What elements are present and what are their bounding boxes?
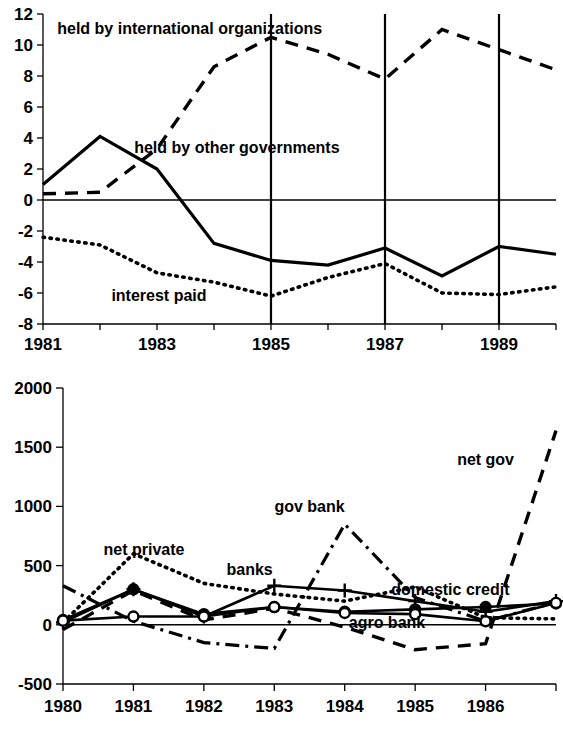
top-y-tick-label: 8 bbox=[24, 67, 33, 86]
bottom-marker-agro-bank bbox=[58, 616, 68, 626]
top-y-tick-label: 12 bbox=[14, 5, 33, 24]
bottom-series-label-net-private: net private bbox=[104, 541, 185, 558]
bottom-series-label-agro-bank: agro bank bbox=[349, 614, 426, 631]
bottom-y-tick-labels: -5000500100015002000 bbox=[14, 379, 52, 694]
bottom-x-tick-label: 1982 bbox=[185, 697, 223, 716]
top-axes bbox=[37, 14, 556, 330]
bottom-marker-agro-bank bbox=[481, 616, 491, 626]
bottom-y-tick-label: 500 bbox=[24, 557, 52, 576]
top-y-tick-labels: -8-6-4-2024681012 bbox=[14, 5, 33, 334]
bottom-marker-domestic-credit bbox=[481, 602, 491, 612]
bottom-series-label-domestic-credit: domestic credit bbox=[391, 581, 510, 598]
top-series-label-held-by-other-governments: held by other governments bbox=[134, 139, 339, 156]
top-x-tick-label: 1985 bbox=[252, 335, 290, 354]
top-series-held-by-international-organizations bbox=[43, 30, 556, 194]
top-x-tick-label: 1987 bbox=[366, 335, 404, 354]
top-y-tick-label: -8 bbox=[18, 315, 33, 334]
top-x-tick-label: 1981 bbox=[24, 335, 62, 354]
bottom-x-tick-label: 1983 bbox=[255, 697, 293, 716]
bottom-marker-banks bbox=[338, 583, 352, 597]
top-y-tick-label: -4 bbox=[18, 253, 34, 272]
bottom-y-tick-label: -500 bbox=[18, 675, 52, 694]
top-series-group bbox=[43, 30, 556, 297]
top-y-tick-label: 4 bbox=[24, 129, 34, 148]
bottom-x-tick-label: 1981 bbox=[115, 697, 153, 716]
top-x-tick-label: 1983 bbox=[138, 335, 176, 354]
bottom-y-tick-label: 1500 bbox=[14, 438, 52, 457]
bottom-y-tick-label: 2000 bbox=[14, 379, 52, 398]
top-series-label-held-by-international-organizations: held by international organizations bbox=[57, 20, 322, 37]
bottom-chart-svg: -5000500100015002000 1980198119821983198… bbox=[0, 366, 563, 732]
bottom-marker-agro-bank bbox=[551, 598, 561, 608]
bottom-y-tick-label: 1000 bbox=[14, 497, 52, 516]
bottom-x-tick-label: 1984 bbox=[326, 697, 364, 716]
top-y-tick-label: 10 bbox=[14, 36, 33, 55]
figure-root: -8-6-4-2024681012 19811983198519871989 h… bbox=[0, 0, 563, 732]
external-debt-flows-panel: -8-6-4-2024681012 19811983198519871989 h… bbox=[0, 0, 563, 366]
top-y-tick-label: 0 bbox=[24, 191, 33, 210]
bottom-marker-agro-bank bbox=[128, 612, 138, 622]
top-vertical-gridlines bbox=[271, 14, 499, 324]
bottom-series-label-banks: banks bbox=[227, 561, 273, 578]
top-chart-svg: -8-6-4-2024681012 19811983198519871989 h… bbox=[0, 0, 563, 366]
bottom-x-tick-label: 1986 bbox=[467, 697, 505, 716]
bottom-x-tick-labels: 1980198119821983198419851986 bbox=[44, 697, 504, 716]
top-series-label-interest-paid: interest paid bbox=[111, 287, 206, 304]
domestic-credit-flows-panel: -5000500100015002000 1980198119821983198… bbox=[0, 366, 563, 732]
bottom-marker-agro-bank bbox=[199, 612, 209, 622]
top-x-tick-label: 1989 bbox=[480, 335, 518, 354]
top-y-tick-label: 6 bbox=[24, 98, 33, 117]
bottom-marker-domestic-credit bbox=[128, 584, 138, 594]
bottom-series-label-net-gov: net gov bbox=[457, 451, 514, 468]
bottom-y-tick-label: 0 bbox=[43, 616, 52, 635]
bottom-marker-agro-bank bbox=[269, 602, 279, 612]
bottom-marker-banks bbox=[267, 579, 281, 593]
top-x-tick-labels: 19811983198519871989 bbox=[24, 335, 518, 354]
bottom-series-label-gov-bank: gov bank bbox=[274, 498, 344, 515]
bottom-x-tick-label: 1985 bbox=[396, 697, 434, 716]
top-y-tick-label: -6 bbox=[18, 284, 33, 303]
bottom-x-tick-label: 1980 bbox=[44, 697, 82, 716]
top-y-tick-label: -2 bbox=[18, 222, 33, 241]
top-y-tick-label: 2 bbox=[24, 160, 33, 179]
